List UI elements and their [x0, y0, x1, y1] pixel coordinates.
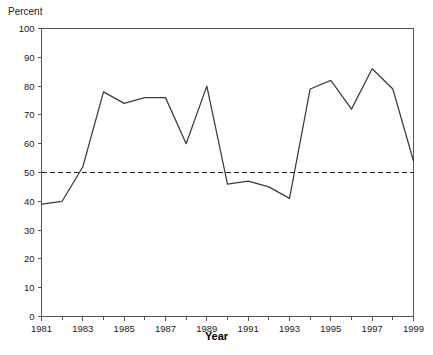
y-tick-label: 40 [24, 196, 35, 207]
chart-plot-area: 0102030405060708090100198119831985198719… [0, 0, 433, 355]
y-tick-label: 0 [29, 311, 34, 322]
y-tick-label: 60 [24, 138, 35, 149]
y-tick-label: 100 [19, 23, 35, 34]
data-series-line [42, 69, 414, 204]
y-tick-label: 30 [24, 225, 35, 236]
y-tick-label: 10 [24, 282, 35, 293]
y-tick-label: 80 [24, 81, 35, 92]
x-axis-title: Year [0, 330, 433, 342]
line-chart: Percent 01020304050607080901001981198319… [0, 0, 433, 355]
y-tick-label: 70 [24, 109, 35, 120]
y-tick-label: 90 [24, 52, 35, 63]
y-tick-label: 50 [24, 167, 35, 178]
y-tick-label: 20 [24, 253, 35, 264]
